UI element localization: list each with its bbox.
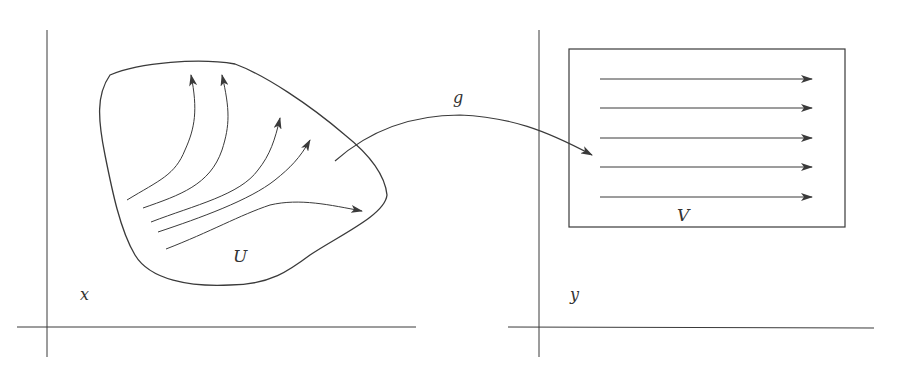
map-g: g	[335, 88, 592, 161]
region-v-label: V	[677, 205, 691, 225]
flow-line-u-5	[166, 202, 362, 249]
right-panel: V y	[508, 30, 874, 357]
flow-line-u-2	[143, 75, 228, 208]
right-horizontal-axis	[508, 327, 874, 328]
flow-line-u-4	[158, 140, 310, 232]
x-axis-label: x	[80, 285, 89, 304]
region-u-label: U	[233, 246, 248, 266]
flow-line-u-1	[127, 75, 195, 200]
map-g-label: g	[453, 88, 463, 107]
left-panel: U x	[17, 30, 416, 357]
map-g-arrow	[335, 115, 592, 161]
y-axis-label: y	[569, 285, 580, 304]
flow-line-u-3	[151, 118, 280, 222]
flow-box-diagram: U x g V y	[0, 0, 900, 373]
